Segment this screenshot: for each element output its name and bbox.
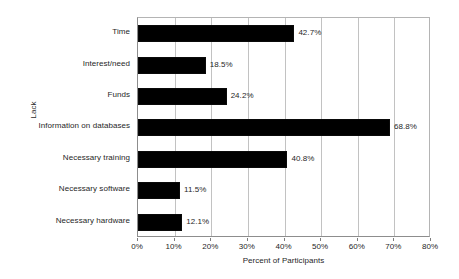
- x-axis-tick-label: 50%: [307, 242, 333, 252]
- x-axis-tick-label: 70%: [380, 242, 406, 252]
- category-label: Necessary software: [26, 184, 130, 194]
- bar-value-label: 40.8%: [291, 154, 314, 164]
- plot-area: 42.7%18.5%24.2%68.8%40.8%11.5%12.1%: [137, 17, 430, 237]
- category-label: Information on databases: [26, 121, 130, 131]
- x-axis-tick-label: 20%: [197, 242, 223, 252]
- bar: [138, 182, 180, 199]
- category-label: Interest/need: [26, 59, 130, 69]
- x-axis-tick-mark: [284, 238, 285, 241]
- x-axis-tick-list: 0%10%20%30%40%50%60%70%80%: [137, 238, 430, 252]
- x-axis-tick-mark: [247, 238, 248, 241]
- bar-value-label: 24.2%: [231, 91, 254, 101]
- bar-row: 42.7%: [138, 25, 431, 42]
- category-label: Funds: [26, 90, 130, 100]
- x-axis-tick-label: 0%: [124, 242, 150, 252]
- bar-value-label: 11.5%: [184, 185, 206, 195]
- bar-row: 24.2%: [138, 88, 431, 105]
- bar: [138, 151, 287, 168]
- x-axis-tick-mark: [357, 238, 358, 241]
- category-label-list: TimeInterest/needFundsInformation on dat…: [28, 17, 134, 237]
- x-axis-tick-mark: [210, 238, 211, 241]
- category-label: Necessary hardware: [26, 216, 130, 226]
- x-axis-tick-label: 60%: [344, 242, 370, 252]
- bar-value-label: 18.5%: [210, 60, 233, 70]
- category-label: Necessary training: [26, 153, 130, 163]
- x-axis-tick-label: 40%: [271, 242, 297, 252]
- x-axis-tick-label: 30%: [234, 242, 260, 252]
- bar: [138, 119, 390, 136]
- bar-row: 40.8%: [138, 151, 431, 168]
- x-axis-tick-mark: [174, 238, 175, 241]
- bar: [138, 57, 206, 74]
- x-axis-tick-mark: [137, 238, 138, 241]
- x-axis-tick-mark: [320, 238, 321, 241]
- bar: [138, 25, 294, 42]
- bar-value-label: 12.1%: [186, 217, 209, 227]
- x-axis-title: Percent of Participants: [137, 256, 430, 266]
- x-axis-tick-label: 80%: [417, 242, 443, 252]
- bar: [138, 214, 182, 231]
- x-axis-tick-mark: [430, 238, 431, 241]
- bar-row: 68.8%: [138, 119, 431, 136]
- bar-row: 18.5%: [138, 57, 431, 74]
- bar-row: 12.1%: [138, 214, 431, 231]
- bar-chart: Lack TimeInterest/needFundsInformation o…: [0, 0, 459, 279]
- bar-value-label: 42.7%: [298, 28, 321, 38]
- x-axis-tick-label: 10%: [161, 242, 187, 252]
- bar-value-label: 68.8%: [394, 122, 417, 132]
- bar: [138, 88, 227, 105]
- bar-row: 11.5%: [138, 182, 431, 199]
- x-axis-tick-mark: [393, 238, 394, 241]
- category-label: Time: [26, 27, 130, 37]
